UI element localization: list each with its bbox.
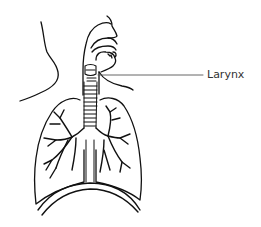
larynx-label: Larynx bbox=[207, 69, 244, 80]
neck-outline bbox=[20, 22, 58, 101]
diaphragm bbox=[38, 183, 140, 215]
trachea bbox=[84, 82, 97, 128]
mediastinum bbox=[86, 140, 94, 182]
respiratory-system-diagram bbox=[0, 0, 261, 227]
bronchial-tree bbox=[44, 106, 130, 178]
larynx bbox=[85, 65, 96, 82]
right-lung bbox=[35, 99, 85, 205]
